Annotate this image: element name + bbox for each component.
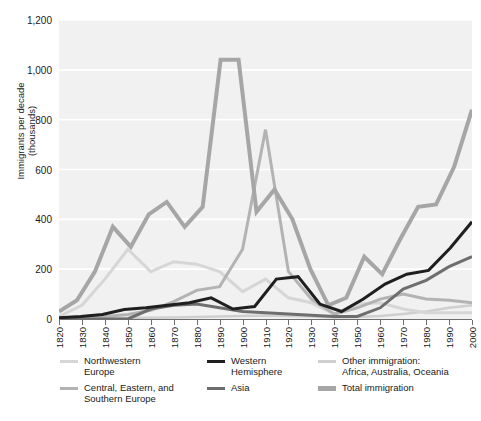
x-axis-tick — [266, 320, 267, 325]
x-axis-tick — [197, 320, 198, 325]
x-axis-tick — [403, 320, 404, 325]
legend-swatch-icon — [60, 360, 78, 363]
x-axis-tick — [174, 320, 175, 325]
y-axis-tick-labels: 1,2001,0008006004002000 — [0, 0, 56, 330]
x-axis-tick-label: 1840 — [100, 327, 111, 348]
x-axis-tick — [59, 320, 60, 325]
x-axis-tick-label: 1940 — [329, 327, 340, 348]
x-axis-tick — [128, 320, 129, 325]
chart-root: Immigrants per decade (thousands) 1,2001… — [0, 0, 481, 421]
legend-item[interactable]: Asia — [207, 383, 312, 394]
x-axis-tick — [105, 320, 106, 325]
x-axis-tick-label: 1950 — [352, 327, 363, 348]
legend-swatch-icon — [60, 387, 78, 390]
x-axis-tick-label: 2000 — [467, 327, 478, 348]
legend-label: Other immigration: Africa, Australia, Oc… — [342, 356, 449, 377]
y-axis-tick-label: 400 — [35, 214, 52, 225]
x-axis-tick-label: 1930 — [306, 327, 317, 348]
legend-label: Northwestern Europe — [84, 356, 141, 377]
x-axis-tick-label: 1830 — [77, 327, 88, 348]
legend-swatch-icon — [207, 360, 225, 363]
x-axis-tick-label: 1980 — [421, 327, 432, 348]
x-axis-tick — [243, 320, 244, 325]
legend-item[interactable]: Northwestern Europe — [60, 356, 200, 377]
y-axis-tick-label: 1,000 — [27, 64, 52, 75]
legend-column-1: Northwestern EuropeCentral, Eastern, and… — [60, 356, 200, 410]
x-axis-tick — [334, 320, 335, 325]
legend-swatch-icon — [207, 387, 225, 390]
x-axis-tick-label: 1970 — [398, 327, 409, 348]
legend-swatch-icon — [318, 386, 336, 391]
x-axis-tick-label: 1960 — [375, 327, 386, 348]
x-axis-tick-label: 1860 — [146, 327, 157, 348]
legend-label: Total immigration — [342, 383, 414, 394]
legend-column-3: Other immigration: Africa, Australia, Oc… — [318, 356, 481, 400]
x-axis-tick — [357, 320, 358, 325]
x-axis-ticks — [0, 320, 481, 326]
y-axis-tick-label: 600 — [35, 164, 52, 175]
x-axis-tick — [380, 320, 381, 325]
legend-column-2: Western HemisphereAsia — [207, 356, 312, 400]
plot-svg — [59, 20, 472, 319]
y-axis-tick-label: 800 — [35, 114, 52, 125]
legend-label: Asia — [231, 383, 249, 394]
x-axis-tick-label: 1870 — [169, 327, 180, 348]
x-axis-tick — [151, 320, 152, 325]
x-axis-tick-label: 1920 — [283, 327, 294, 348]
x-axis-tick-label: 1850 — [123, 327, 134, 348]
x-axis-tick — [82, 320, 83, 325]
y-axis-tick-label: 1,200 — [27, 15, 52, 26]
x-axis-tick — [426, 320, 427, 325]
x-axis-tick-label: 1910 — [261, 327, 272, 348]
x-axis-tick-label: 1820 — [54, 327, 65, 348]
x-axis-tick-label: 1990 — [444, 327, 455, 348]
x-axis-tick — [449, 320, 450, 325]
x-axis-tick-label: 1880 — [192, 327, 203, 348]
legend-label: Central, Eastern, and Southern Europe — [84, 383, 174, 404]
legend-item[interactable]: Total immigration — [318, 383, 481, 394]
x-axis-tick — [220, 320, 221, 325]
chart-legend: Northwestern EuropeCentral, Eastern, and… — [60, 356, 475, 408]
legend-item[interactable]: Other immigration: Africa, Australia, Oc… — [318, 356, 481, 377]
legend-swatch-icon — [318, 360, 336, 363]
legend-item[interactable]: Central, Eastern, and Southern Europe — [60, 383, 200, 404]
x-axis-tick — [311, 320, 312, 325]
legend-label: Western Hemisphere — [231, 356, 282, 377]
x-axis-tick-label: 1900 — [238, 327, 249, 348]
x-axis-tick — [288, 320, 289, 325]
plot-area — [59, 20, 472, 319]
series-line — [59, 249, 472, 316]
x-axis-tick — [472, 320, 473, 325]
y-axis-tick-label: 200 — [35, 264, 52, 275]
x-axis-tick-label: 1890 — [215, 327, 226, 348]
legend-item[interactable]: Western Hemisphere — [207, 356, 312, 377]
